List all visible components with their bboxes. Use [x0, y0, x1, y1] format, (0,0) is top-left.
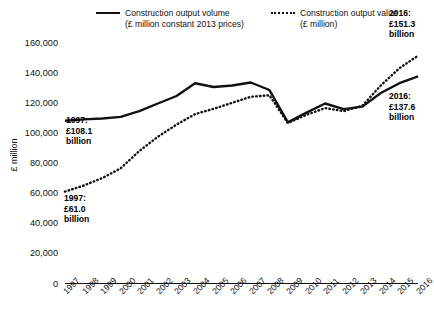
- annotation-line: 2016:: [389, 8, 415, 19]
- annotation-volume-end: 2016:£137.6billion: [389, 91, 415, 123]
- annotation-line: billion: [389, 29, 415, 40]
- annotation-value-end: 2016:£151.3billion: [389, 8, 415, 40]
- annotation-volume-start: 1997:£108.1billion: [66, 115, 92, 147]
- annotation-line: £151.3: [389, 19, 415, 30]
- annotation-line: billion: [389, 112, 415, 123]
- series-line-value: [65, 56, 418, 192]
- annotation-line: 1997:: [64, 193, 89, 204]
- annotation-line: £137.6: [389, 102, 415, 113]
- annotation-line: billion: [64, 214, 89, 225]
- annotation-line: billion: [66, 136, 92, 147]
- chart-plot-area: [0, 0, 434, 316]
- annotation-line: £61.0: [64, 204, 89, 215]
- annotation-line: 2016:: [389, 91, 415, 102]
- annotation-value-start: 1997:£61.0billion: [64, 193, 89, 225]
- chart-container: Construction output volume (£ million co…: [0, 0, 434, 316]
- annotation-line: £108.1: [66, 126, 92, 137]
- annotation-line: 1997:: [66, 115, 92, 126]
